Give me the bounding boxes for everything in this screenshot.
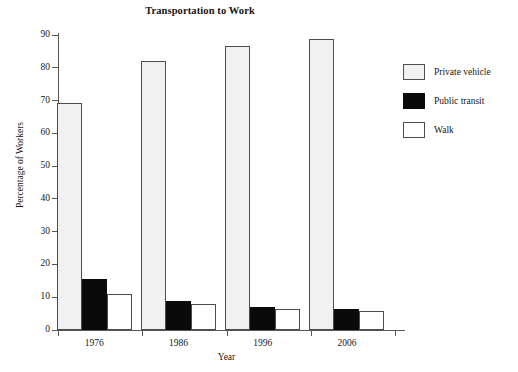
bar-2006-private-vehicle — [309, 39, 334, 330]
legend-swatch-icon — [403, 122, 425, 138]
bar-1976-public-transit — [82, 279, 107, 330]
y-axis-tick-label: 90 — [8, 30, 50, 40]
x-axis-line — [58, 330, 405, 331]
bar-1996-public-transit — [250, 307, 275, 330]
x-axis-tick — [395, 331, 396, 336]
legend-label: Walk — [434, 125, 454, 135]
bar-1986-public-transit — [166, 301, 191, 331]
bar-1986-private-vehicle — [141, 61, 166, 330]
x-axis-tick — [227, 331, 228, 336]
legend-item[interactable]: Walk — [403, 118, 515, 142]
bar-2006-public-transit — [334, 309, 359, 330]
chart-figure: Transportation to Work 01020304050607080… — [0, 0, 518, 372]
chart-legend: Private vehiclePublic transitWalk — [403, 60, 515, 147]
bar-1986-walk — [191, 304, 216, 330]
legend-swatch-icon — [403, 93, 425, 109]
x-axis-title: Year — [58, 352, 395, 362]
bar-1976-walk — [107, 294, 132, 330]
y-axis-tick-labels: 0102030405060708090 — [0, 0, 50, 372]
legend-item[interactable]: Public transit — [403, 89, 515, 113]
legend-label: Public transit — [434, 96, 484, 106]
x-axis-tick — [142, 331, 143, 336]
y-axis-title: Percentage of Workers — [15, 65, 25, 265]
x-axis-tick — [311, 331, 312, 336]
bar-1976-private-vehicle — [57, 103, 82, 330]
legend-swatch-icon — [403, 64, 425, 80]
bar-1996-private-vehicle — [225, 46, 250, 330]
x-axis-tick-label: 1986 — [148, 338, 208, 348]
legend-label: Private vehicle — [434, 67, 491, 77]
y-axis-tick — [52, 100, 58, 101]
chart-title: Transportation to Work — [0, 5, 400, 16]
y-axis-tick-label: 10 — [8, 292, 50, 302]
x-axis-tick-label: 1976 — [64, 338, 124, 348]
x-axis-tick-label: 2006 — [317, 338, 377, 348]
x-axis-tick-label: 1996 — [233, 338, 293, 348]
bar-2006-walk — [359, 311, 384, 330]
y-axis-tick — [52, 35, 58, 36]
x-axis-tick — [58, 331, 59, 336]
y-axis-tick — [52, 67, 58, 68]
bar-1996-walk — [275, 309, 300, 330]
y-axis-tick-label: 0 — [8, 325, 50, 335]
legend-item[interactable]: Private vehicle — [403, 60, 515, 84]
